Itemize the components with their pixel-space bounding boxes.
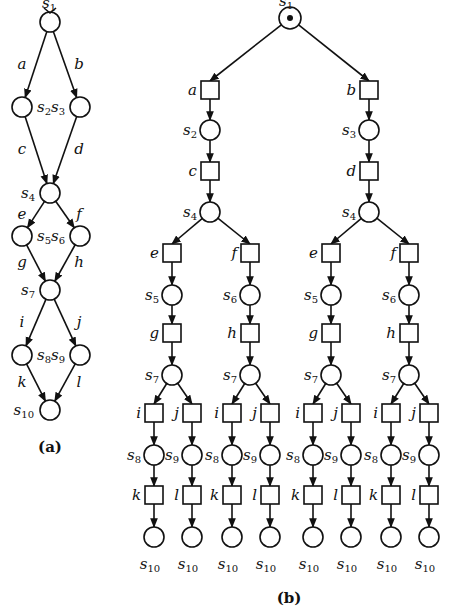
transition-label-b: b [74,55,84,73]
transition-system-a: abcdefghijkls1s2s3s4s5s6s7s8s9s10 [12,0,90,420]
state-s9 [70,345,90,365]
event-l [183,486,201,504]
arc [25,117,47,184]
place-s4 [200,202,220,222]
place-label-s3: s3 [342,121,356,140]
place-label-s10: s10 [377,555,397,574]
event-label-i: i [373,404,378,422]
state-label-s4: s4 [21,184,35,203]
state-label-s5: s5 [37,227,51,246]
place-s8 [381,445,401,465]
event-label-g: g [149,324,159,342]
state-s10 [40,400,60,420]
event-label-l: l [252,486,257,504]
arc [55,364,75,401]
arc [331,218,361,244]
arc [55,245,75,282]
state-s7 [40,280,60,300]
state-s4 [40,183,60,203]
place-label-s4: s4 [342,203,356,222]
transition-label-l: l [77,373,82,391]
place-label-s6: s6 [223,286,237,305]
transition-label-a: a [18,55,27,73]
event-label-e: e [150,244,159,262]
place-s4 [359,202,379,222]
transition-label-d: d [74,140,84,158]
transition-label-g: g [17,253,27,271]
event-label-h: h [227,324,237,342]
place-label-s6: s6 [382,286,396,305]
event-label-j: j [330,404,338,422]
place-s9 [182,445,202,465]
event-j [342,404,360,422]
event-label-f: f [230,244,239,262]
event-label-f: f [389,244,398,262]
event-l [261,486,279,504]
transition-label-f: f [75,205,84,223]
arc [391,383,404,404]
event-k [382,486,400,504]
arc [256,383,270,404]
place-label-s8: s8 [127,446,141,465]
place-label-s8: s8 [364,446,378,465]
transition-label-c: c [18,140,27,158]
event-l [342,486,360,504]
arc [53,31,76,97]
place-s10 [182,527,202,547]
arc [210,25,281,81]
place-s7 [399,365,419,385]
event-label-k: k [132,486,141,504]
event-label-j: j [249,404,257,422]
state-label-s1: s1 [42,0,56,13]
event-label-k: k [291,486,300,504]
place-s9 [341,445,361,465]
place-label-s2: s2 [183,121,197,140]
event-a [201,81,219,99]
event-b [360,81,378,99]
event-j [261,404,279,422]
event-e [163,244,181,262]
place-label-s7: s7 [223,366,237,385]
place-label-s7: s7 [145,366,159,385]
place-s9 [419,445,439,465]
transition-label-i: i [20,313,25,331]
place-s7 [162,365,182,385]
arc [299,25,369,81]
state-label-s7: s7 [21,281,35,300]
event-k [145,486,163,504]
state-s1 [40,12,60,32]
place-s6 [399,285,419,305]
event-label-b: b [346,81,356,99]
event-label-h: h [386,324,396,342]
event-h [241,324,259,342]
arc [56,201,75,228]
event-g [322,324,340,342]
place-label-s9: s9 [165,446,179,465]
place-label-s4: s4 [183,203,197,222]
caption-b: (b) [277,589,302,607]
place-s8 [303,445,323,465]
arc [377,218,409,244]
place-s8 [144,445,164,465]
event-label-k: k [369,486,378,504]
event-f [400,244,418,262]
place-s9 [260,445,280,465]
state-s6 [70,226,90,246]
state-label-s8: s8 [37,346,51,365]
event-label-d: d [346,162,356,180]
arc [178,383,192,404]
unfolding-tree-b: s1as2cs4es5gs7is8ks10js9ls10fs6hs7is8ks1… [127,0,439,574]
event-j [420,404,438,422]
unfolding-diagram: abcdefghijkls1s2s3s4s5s6s7s8s9s10 s1as2c… [0,0,459,616]
state-s5 [12,226,32,246]
place-s8 [222,445,242,465]
place-label-s10: s10 [218,555,238,574]
place-s5 [162,285,182,305]
state-label-s9: s9 [51,346,65,365]
event-label-l: l [333,486,338,504]
state-s2 [12,97,32,117]
token-icon [287,15,293,21]
place-s6 [240,285,260,305]
place-label-s10: s10 [256,555,276,574]
event-i [304,404,322,422]
